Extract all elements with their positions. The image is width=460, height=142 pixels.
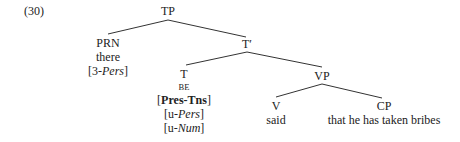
node-cp: CP <box>377 100 392 113</box>
node-t: T <box>180 68 187 81</box>
node-tbar: T′ <box>242 38 252 51</box>
feature-u-pers: [u-Pers] <box>164 108 204 121</box>
feature-pres-tns: [Pres-Tns] <box>157 94 211 107</box>
word-be: BE <box>179 82 190 92</box>
node-prn: PRN <box>96 37 119 50</box>
word-there: there <box>96 51 120 64</box>
feature-u-num: [u-Num] <box>164 122 205 135</box>
node-tp: TP <box>161 5 175 18</box>
node-vp: VP <box>314 70 329 83</box>
node-v: V <box>272 100 281 113</box>
feature-3-pers: [3-Pers] <box>88 65 128 78</box>
example-number: (30) <box>24 5 44 18</box>
word-said: said <box>266 114 285 127</box>
cp-text: that he has taken bribes <box>328 114 441 127</box>
